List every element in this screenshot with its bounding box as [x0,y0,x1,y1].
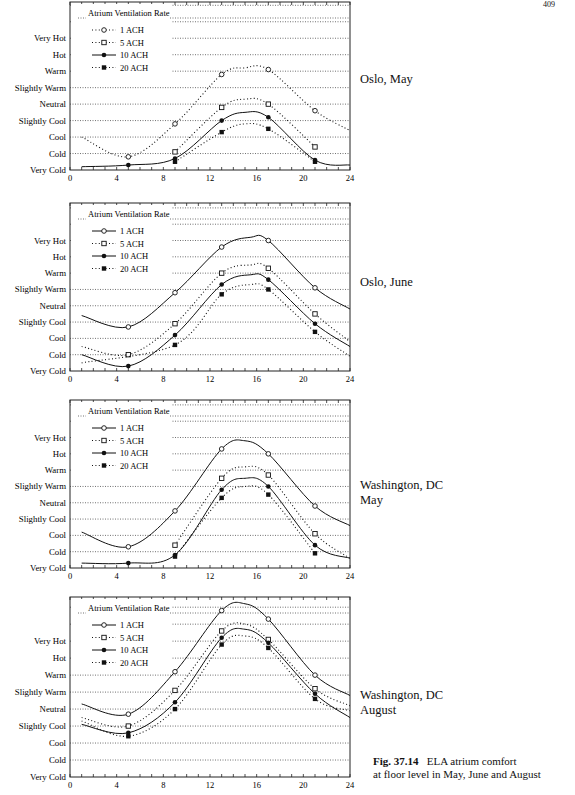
x-tick-label: 16 [252,173,261,183]
y-tick-label: Hot [53,50,67,60]
figure-label: Fig. 37.14 [373,755,419,767]
y-tick-label: Very Hot [34,636,67,646]
y-tick-label: Warm [45,465,66,475]
y-tick-label: Hot [53,653,67,663]
x-tick-label: 0 [68,780,72,790]
x-tick-label: 8 [161,780,165,790]
y-tick-label: Cool [49,530,67,540]
legend-item: 1 ACH [120,423,144,433]
y-tick-label: Cold [49,350,67,360]
panel-title-oslo-may: Oslo, May [360,72,413,87]
series-line [82,263,350,355]
y-tick-label: Very Cold [30,165,67,175]
chart-panel-washington-may: Very ColdColdCoolSlightly CoolNeutralSli… [0,397,575,592]
chart-panel-oslo-june: Very ColdColdCoolSlightly CoolNeutralSli… [0,200,575,395]
y-tick-label: Slightly Warm [15,284,66,294]
legend-item: 10 ACH [120,50,148,60]
x-tick-label: 4 [115,374,120,384]
legend-item: 10 ACH [120,645,148,655]
x-tick-label: 12 [206,374,215,384]
y-tick-label: Warm [45,66,66,76]
x-tick-label: 8 [161,173,165,183]
figure-caption: Fig. 37.14 ELA atrium comfort at floor l… [373,755,541,781]
y-tick-label: Slightly Warm [15,83,66,93]
x-tick-label: 12 [206,780,215,790]
x-tick-label: 16 [252,571,261,581]
y-tick-label: Cool [49,333,67,343]
y-tick-label: Neutral [40,498,67,508]
chart-svg: Very ColdColdCoolSlightly CoolNeutralSli… [0,200,575,395]
legend-item: 5 ACH [120,436,144,446]
chart-svg: Very ColdColdCoolSlightly CoolNeutralSli… [0,397,575,592]
caption-line-1: ELA atrium comfort [427,755,517,767]
legend-item: 20 ACH [120,63,148,73]
y-tick-label: Cold [49,547,67,557]
legend-title: Atrium Ventilation Rate [88,8,170,18]
series-line [82,284,350,363]
legend-item: 1 ACH [120,620,144,630]
x-tick-label: 0 [68,374,72,384]
legend-item: 20 ACH [120,461,148,471]
y-tick-label: Slightly Warm [15,481,66,491]
y-tick-label: Slightly Warm [15,687,66,697]
y-tick-label: Very Hot [34,236,67,246]
x-tick-label: 8 [161,374,165,384]
legend-item: 10 ACH [120,448,148,458]
x-tick-label: 24 [346,780,355,790]
y-tick-label: Very Hot [34,33,67,43]
legend-item: 1 ACH [120,25,144,35]
y-tick-label: Warm [45,670,66,680]
x-tick-label: 8 [161,571,165,581]
x-tick-label: 20 [299,780,308,790]
legend-title: Atrium Ventilation Rate [88,406,170,416]
y-tick-label: Very Hot [34,433,67,443]
panel-title-washington-august: Washington, DC August [360,688,443,718]
series-line [82,112,350,167]
y-tick-label: Very Cold [30,772,67,782]
legend-item: 10 ACH [120,251,148,261]
legend-item: 20 ACH [120,264,148,274]
y-tick-label: Slightly Cool [19,514,67,524]
legend-item: 5 ACH [120,633,144,643]
series-line [82,274,350,367]
y-tick-label: Neutral [40,99,67,109]
legend-item: 5 ACH [120,38,144,48]
x-tick-label: 16 [252,374,261,384]
x-tick-label: 20 [299,374,308,384]
chart-svg: Very ColdColdCoolSlightly CoolNeutralSli… [0,0,575,190]
x-tick-label: 12 [206,571,215,581]
y-tick-label: Cool [49,738,67,748]
x-tick-label: 16 [252,780,261,790]
legend-title: Atrium Ventilation Rate [88,603,170,613]
series-line [175,486,315,557]
x-tick-label: 24 [346,571,355,581]
series-line [175,98,315,151]
x-tick-label: 4 [115,571,120,581]
x-tick-label: 20 [299,173,308,183]
panel-title-washington-may: Washington, DC May [360,478,443,508]
y-tick-label: Slightly Cool [19,721,67,731]
y-tick-label: Cool [49,132,67,142]
series-line [82,66,350,157]
legend-item: 1 ACH [120,226,144,236]
x-tick-label: 24 [346,173,355,183]
x-tick-label: 4 [115,780,120,790]
y-tick-label: Slightly Cool [19,317,67,327]
y-tick-label: Very Cold [30,366,67,376]
y-tick-label: Neutral [40,301,67,311]
legend-title: Atrium Ventilation Rate [88,209,170,219]
series-line [82,478,350,564]
x-tick-label: 0 [68,173,72,183]
legend-item: 20 ACH [120,658,148,668]
y-tick-label: Cold [49,149,67,159]
chart-panel-oslo-may: Very ColdColdCoolSlightly CoolNeutralSli… [0,0,575,190]
x-tick-label: 12 [206,173,215,183]
panel-title-oslo-june: Oslo, June [360,275,413,290]
x-tick-label: 0 [68,571,72,581]
y-tick-label: Cold [49,755,67,765]
y-tick-label: Slightly Cool [19,116,67,126]
y-tick-label: Warm [45,268,66,278]
x-tick-label: 20 [299,571,308,581]
y-tick-label: Neutral [40,704,67,714]
y-tick-label: Very Cold [30,563,67,573]
